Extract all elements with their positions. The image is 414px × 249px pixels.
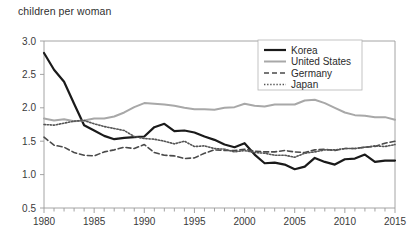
y-tick-label: 0.5: [22, 203, 36, 214]
series-line-united-states: [44, 100, 395, 121]
series-line-germany: [44, 137, 395, 158]
plot-area: 3.02.52.01.51.00.5 198019851990199520002…: [0, 0, 414, 249]
y-tick-label: 1.5: [22, 136, 36, 147]
legend-label-japan: Japan: [291, 79, 318, 90]
x-tick-label: 2005: [284, 216, 307, 227]
fertility-rate-line-chart: children per woman 3.02.52.01.51.00.5 19…: [0, 0, 414, 249]
x-tick-label: 1980: [33, 216, 56, 227]
x-tick-label: 1985: [83, 216, 106, 227]
x-tick-label: 2015: [384, 216, 407, 227]
y-axis-ticks: 3.02.52.01.51.00.5: [22, 36, 44, 214]
legend-label-united-states: United States: [291, 56, 351, 67]
x-tick-label: 2010: [334, 216, 357, 227]
legend-label-korea: Korea: [291, 45, 318, 56]
y-tick-label: 3.0: [22, 36, 36, 47]
legend-label-germany: Germany: [291, 68, 332, 79]
chart-legend: KoreaUnited StatesGermanyJapan: [258, 40, 362, 90]
x-tick-label: 1990: [133, 216, 156, 227]
x-axis-ticks: 19801985199019952000200520102015: [33, 208, 407, 227]
y-tick-label: 1.0: [22, 169, 36, 180]
y-tick-label: 2.5: [22, 69, 36, 80]
series-line-japan: [44, 120, 395, 157]
x-tick-label: 1995: [183, 216, 206, 227]
x-tick-label: 2000: [233, 216, 256, 227]
y-tick-label: 2.0: [22, 102, 36, 113]
